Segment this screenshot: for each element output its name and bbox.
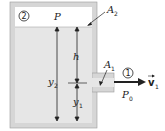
area-top-sub: 2 <box>114 10 118 17</box>
velocity-sub: 1 <box>155 83 159 90</box>
area-outlet-sub: 1 <box>111 65 115 72</box>
point-1-label: 1 <box>125 69 130 78</box>
y1-sub: 1 <box>79 102 83 109</box>
velocity-label: v <box>148 77 155 88</box>
h-label: h <box>73 51 79 62</box>
pressure-outlet-label: P <box>121 89 129 100</box>
area-top-label: A <box>106 4 114 15</box>
y2-label: y <box>47 76 54 87</box>
pressure-outlet-sub: 0 <box>129 95 133 102</box>
pressure-top-label: P <box>53 11 61 22</box>
point-2-label: 2 <box>21 12 26 21</box>
y1-label: y <box>72 96 79 107</box>
area-outlet-label: A <box>103 59 111 70</box>
velocity-arrow <box>114 78 146 86</box>
tank-diagram: 2 1 P A 2 h y 2 y 1 A 1 P 0 v 1 <box>0 0 165 131</box>
y2-sub: 2 <box>54 82 58 89</box>
